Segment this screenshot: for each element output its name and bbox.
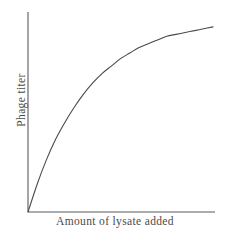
- x-axis-label: Amount of lysate added: [0, 215, 230, 227]
- phage-titer-chart: Amount of lysate added Phage titer: [0, 0, 230, 238]
- plot-area: [0, 0, 230, 238]
- y-axis-label: Phage titer: [15, 73, 27, 126]
- saturation-curve: [28, 27, 213, 212]
